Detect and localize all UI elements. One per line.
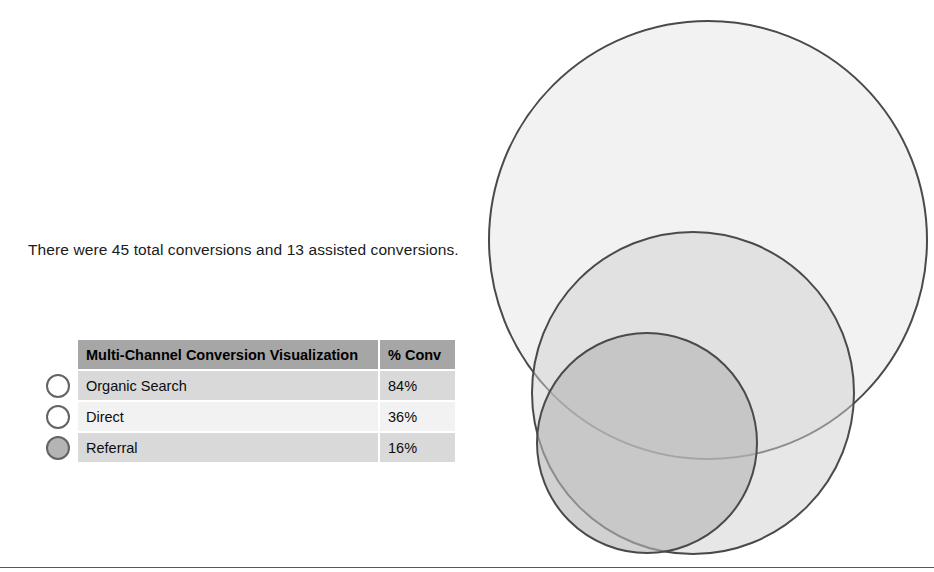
legend-marker-direct-circle-icon <box>46 405 70 429</box>
row-pct-conv-value: 84% <box>380 371 455 400</box>
header-value-column: % Conv <box>380 340 455 369</box>
header-channel-column: Multi-Channel Conversion Visualization <box>78 340 378 369</box>
summary-sentence: There were 45 total conversions and 13 a… <box>28 240 459 260</box>
table-row[interactable]: Organic Search 84% <box>78 371 455 400</box>
table-row[interactable]: Referral 16% <box>78 433 455 462</box>
footer-divider <box>0 567 934 568</box>
table-row[interactable]: Direct 36% <box>78 402 455 431</box>
venn-circle-referral[interactable] <box>537 333 757 553</box>
row-pct-conv-value: 16% <box>380 433 455 462</box>
table-header-row: Multi-Channel Conversion Visualization %… <box>78 340 455 369</box>
row-pct-conv-value: 36% <box>380 402 455 431</box>
legend-marker-organic-search-circle-icon <box>46 374 70 398</box>
row-channel-label: Direct <box>78 402 378 431</box>
conversion-legend-table: Multi-Channel Conversion Visualization %… <box>78 340 455 462</box>
row-channel-label: Referral <box>78 433 378 462</box>
row-channel-label: Organic Search <box>78 371 378 400</box>
legend-marker-referral-circle-icon <box>46 436 70 460</box>
venn-diagram <box>470 0 934 572</box>
